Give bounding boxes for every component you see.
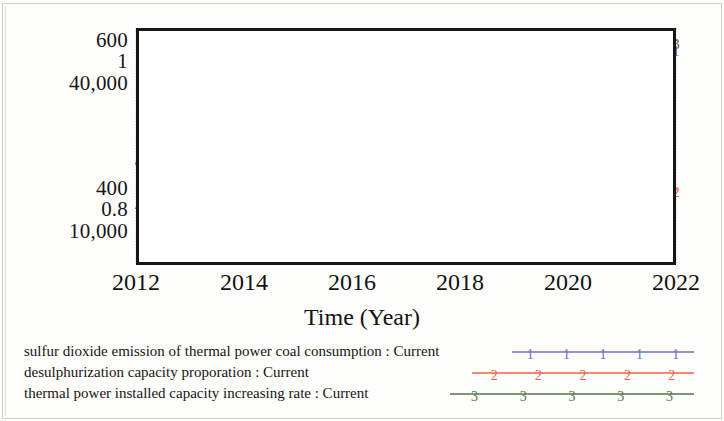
x-axis-tick-2012: 2012: [112, 270, 160, 294]
plot-frame: [136, 28, 676, 265]
legend-line-sample-series2: 22222: [472, 364, 694, 382]
svg-text:3: 3: [520, 389, 527, 404]
svg-text:1: 1: [636, 347, 643, 362]
svg-text:1: 1: [600, 347, 607, 362]
legend-line-sample-series1: 11111: [512, 343, 694, 361]
chart-legend: sulfur dioxide emission of thermal power…: [24, 341, 702, 404]
y-axis-top-labels: 600 1 40,000: [18, 30, 128, 94]
x-axis-ticks: 201220142016201820202022: [136, 270, 676, 302]
svg-text:3: 3: [569, 389, 576, 404]
svg-text:2: 2: [624, 368, 631, 383]
x-axis-tick-2022: 2022: [652, 270, 700, 294]
x-axis-tick-2018: 2018: [436, 270, 484, 294]
x-axis-tick-2016: 2016: [328, 270, 376, 294]
y-axis-top-label-series1: 600: [18, 30, 128, 51]
legend-label-series3: thermal power installed capacity increas…: [24, 386, 368, 401]
y-axis-top-label-series3: 40,000: [18, 73, 128, 94]
graph-page: 600 1 40,000 400 0.8 10,000 111111222222…: [0, 0, 724, 421]
svg-text:3: 3: [471, 389, 478, 404]
y-axis-bottom-label-series3: 10,000: [18, 221, 128, 242]
legend-line-sample-series3: 33333: [450, 385, 694, 403]
svg-text:1: 1: [672, 347, 679, 362]
svg-text:1: 1: [563, 347, 570, 362]
x-axis-tick-2014: 2014: [220, 270, 268, 294]
svg-text:3: 3: [617, 389, 624, 404]
legend-item-series3[interactable]: thermal power installed capacity increas…: [24, 383, 702, 404]
legend-item-series2[interactable]: desulphurization capacity proporation : …: [24, 362, 702, 383]
legend-label-series2: desulphurization capacity proporation : …: [24, 365, 309, 380]
svg-text:1: 1: [527, 347, 534, 362]
svg-text:2: 2: [535, 368, 542, 383]
plot-area: 111111222222333333: [136, 28, 676, 265]
legend-label-series1: sulfur dioxide emission of thermal power…: [24, 344, 439, 359]
y-axis-top-label-series2: 1: [18, 51, 128, 72]
x-axis-title: Time (Year): [0, 304, 724, 331]
svg-text:3: 3: [666, 389, 673, 404]
legend-item-series1[interactable]: sulfur dioxide emission of thermal power…: [24, 341, 702, 362]
y-axis-bottom-labels: 400 0.8 10,000: [18, 178, 128, 242]
y-axis-bottom-label-series2: 0.8: [18, 199, 128, 220]
y-axis-bottom-label-series1: 400: [18, 178, 128, 199]
svg-text:2: 2: [580, 368, 587, 383]
svg-text:2: 2: [491, 368, 498, 383]
x-axis-tick-2020: 2020: [544, 270, 592, 294]
svg-text:2: 2: [668, 368, 675, 383]
